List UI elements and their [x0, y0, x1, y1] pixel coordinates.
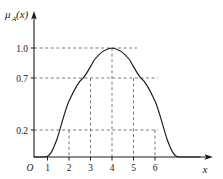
x-tick-label-3: 3: [88, 163, 93, 173]
origin-label: O: [27, 163, 34, 173]
chart-canvas: 1.0 0.7 0.2 1 2 3 4 5 6 O x μ A (x): [0, 0, 223, 179]
x-tick-label-5: 5: [131, 163, 136, 173]
x-tick-label-4: 4: [110, 163, 115, 173]
y-tick-label-0.2: 0.2: [16, 126, 28, 136]
x-tick-label-6: 6: [153, 163, 158, 173]
horizontal-gridlines: [34, 48, 158, 130]
x-tick-label-2: 2: [67, 163, 72, 173]
membership-function-figure: 1.0 0.7 0.2 1 2 3 4 5 6 O x μ A (x): [0, 0, 223, 179]
y-tick-label-1.0: 1.0: [16, 44, 28, 54]
y-axis-label-arg: (x): [16, 8, 29, 21]
y-tick-label-0.7: 0.7: [16, 74, 28, 84]
x-tick-label-1: 1: [45, 163, 50, 173]
y-axis-label: μ A (x): [4, 8, 29, 23]
vertical-gridlines: [69, 48, 155, 157]
x-axis: [34, 154, 213, 160]
membership-curve: [34, 48, 200, 157]
x-axis-tick-labels: 1 2 3 4 5 6: [45, 163, 158, 173]
x-axis-label: x: [202, 164, 208, 175]
y-axis-tick-labels: 1.0 0.7 0.2: [16, 44, 28, 136]
y-axis-label-mu: μ: [4, 8, 11, 20]
y-axis: [31, 11, 37, 157]
